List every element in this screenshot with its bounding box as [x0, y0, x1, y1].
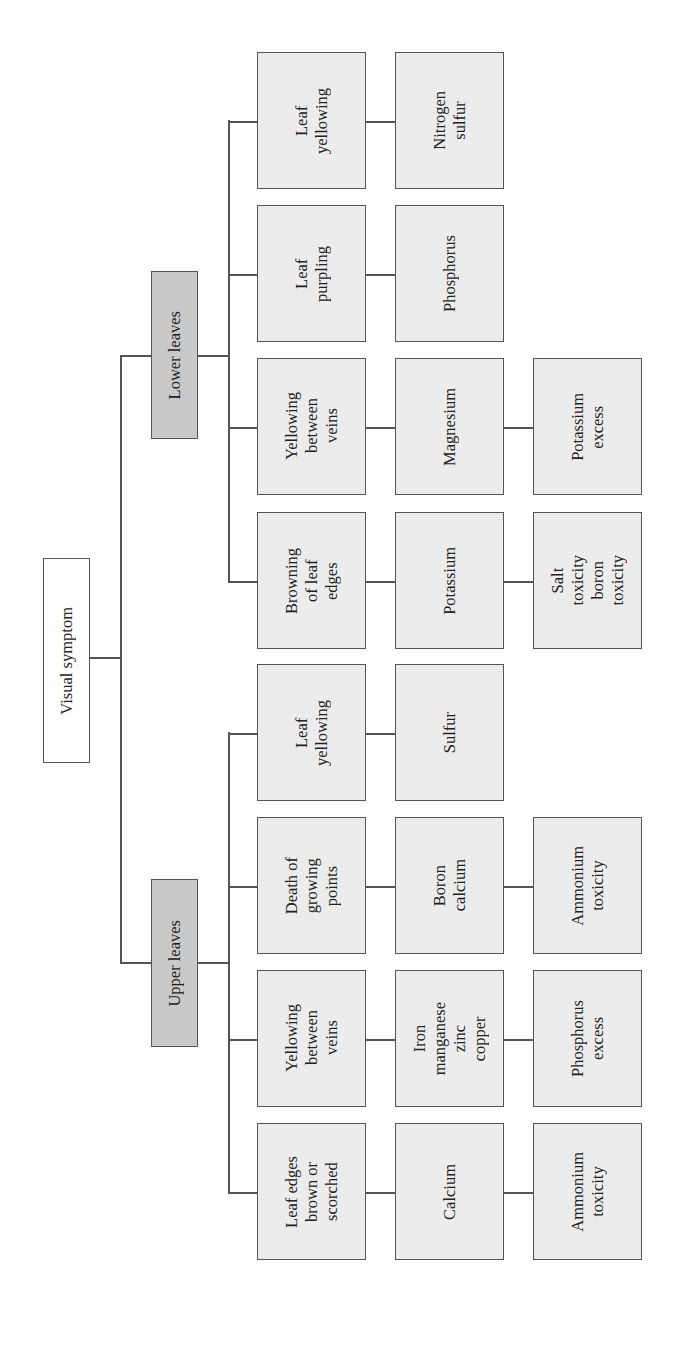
cause-node: Potassium: [395, 512, 504, 649]
excess-node-label: Phosphorus excess: [568, 1000, 608, 1077]
connector-spine-to-symptom: [228, 1192, 257, 1194]
cause-node: Nitrogen sulfur: [395, 52, 504, 189]
root-label: Visual symptom: [57, 607, 77, 715]
symptom-diagnosis-tree: Visual symptom Lower leaves Upper leaves…: [0, 0, 679, 1347]
connector-spine-to-symptom: [228, 1039, 257, 1041]
connector-symptom-node-to-cause-node: [366, 733, 395, 735]
excess-node-label: Ammonium toxicity: [568, 846, 608, 926]
connector-upper-leaves-in: [120, 962, 151, 964]
connector-symptom-node-to-cause-node: [366, 886, 395, 888]
branch-node-lower-leaves: Lower leaves: [151, 271, 198, 439]
excess-node: Phosphorus excess: [533, 970, 642, 1107]
excess-node-label: Potassium excess: [568, 393, 608, 461]
connector-spine-to-symptom: [228, 121, 257, 123]
connector-spine-to-symptom: [228, 733, 257, 735]
connector-spine-to-symptom: [228, 581, 257, 583]
connector-spine-to-symptom: [228, 427, 257, 429]
connector-cause-node-to-excess-node: [504, 886, 533, 888]
cause-node-label: Nitrogen sulfur: [430, 91, 470, 150]
symptom-node: Leaf edges brown or scorched: [257, 1123, 366, 1260]
connector-symptom-node-to-cause-node: [366, 427, 395, 429]
symptom-node-label: Leaf edges brown or scorched: [282, 1156, 342, 1228]
symptom-node-label: Leaf yellowing: [292, 700, 332, 766]
connector-spine-to-symptom: [228, 886, 257, 888]
cause-node: Magnesium: [395, 358, 504, 495]
cause-node: Phosphorus: [395, 205, 504, 342]
cause-node: Calcium: [395, 1123, 504, 1260]
connector-symptom-node-to-cause-node: [366, 581, 395, 583]
excess-node-label: Salt toxicity boron toxicity: [548, 555, 628, 605]
symptom-node-label: Yellowing between veins: [282, 392, 342, 460]
cause-node-label: Phosphorus: [440, 235, 460, 312]
cause-node-label: Boron calcium: [430, 859, 470, 911]
main-spine: [120, 355, 122, 963]
symptom-node-label: Leaf yellowing: [292, 88, 332, 154]
connector-upper-leaves-out: [198, 962, 228, 964]
connector-cause-node-to-excess-node: [504, 427, 533, 429]
cause-node: Sulfur: [395, 664, 504, 801]
connector-cause-node-to-excess-node: [504, 1039, 533, 1041]
cause-node: Boron calcium: [395, 817, 504, 954]
cause-node-label: Iron manganese zinc copper: [410, 1002, 490, 1075]
excess-node: Salt toxicity boron toxicity: [533, 512, 642, 649]
symptom-node: Death of growing points: [257, 817, 366, 954]
excess-node: Potassium excess: [533, 358, 642, 495]
branch-node-upper-leaves: Upper leaves: [151, 879, 198, 1047]
branch-label: Upper leaves: [165, 920, 185, 1007]
connector-symptom-node-to-cause-node: [366, 1192, 395, 1194]
connector-symptom-node-to-cause-node: [366, 121, 395, 123]
connector-symptom-node-to-cause-node: [366, 274, 395, 276]
connector-cause-node-to-excess-node: [504, 581, 533, 583]
symptom-node: Leaf purpling: [257, 205, 366, 342]
symptom-node: Leaf yellowing: [257, 664, 366, 801]
symptom-node-label: Browning of leaf edges: [282, 548, 342, 614]
cause-node-label: Calcium: [440, 1164, 460, 1220]
root-node-visual-symptom: Visual symptom: [43, 558, 90, 763]
connector-lower-leaves-out: [198, 355, 228, 357]
excess-node: Ammonium toxicity: [533, 817, 642, 954]
symptom-node-label: Yellowing between veins: [282, 1004, 342, 1072]
lower-leaves-spine: [228, 120, 230, 581]
upper-leaves-spine: [228, 732, 230, 1192]
connector-root: [90, 657, 121, 659]
cause-node-label: Magnesium: [440, 388, 460, 466]
cause-node: Iron manganese zinc copper: [395, 970, 504, 1107]
symptom-node-label: Death of growing points: [282, 857, 342, 914]
excess-node-label: Ammonium toxicity: [568, 1152, 608, 1232]
cause-node-label: Potassium: [440, 547, 460, 615]
symptom-node: Leaf yellowing: [257, 52, 366, 189]
excess-node: Ammonium toxicity: [533, 1123, 642, 1260]
branch-label: Lower leaves: [165, 311, 185, 399]
symptom-node-label: Leaf purpling: [292, 246, 332, 302]
symptom-node: Yellowing between veins: [257, 358, 366, 495]
symptom-node: Browning of leaf edges: [257, 512, 366, 649]
connector-lower-leaves-in: [120, 355, 151, 357]
symptom-node: Yellowing between veins: [257, 970, 366, 1107]
connector-spine-to-symptom: [228, 274, 257, 276]
connector-cause-node-to-excess-node: [504, 1192, 533, 1194]
connector-symptom-node-to-cause-node: [366, 1039, 395, 1041]
cause-node-label: Sulfur: [440, 712, 460, 753]
